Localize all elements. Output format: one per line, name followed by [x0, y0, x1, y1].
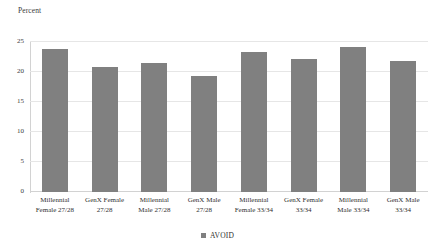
bar	[241, 52, 267, 192]
legend-label-avoid: AVOID	[210, 231, 234, 240]
gridline-15: 15	[30, 101, 428, 102]
x-axis-label-line: 33/34	[280, 206, 328, 216]
gridline-10: 10	[30, 131, 428, 132]
chart-legend: AVOID	[0, 231, 435, 240]
bar	[92, 67, 118, 192]
x-axis-label-line: Millennial	[230, 196, 278, 206]
x-axis-label-line: GenX Female	[280, 196, 328, 206]
bar	[141, 63, 167, 192]
x-axis-label-line: Male 27/28	[130, 206, 178, 216]
gridline-5: 5	[30, 161, 428, 162]
bar	[42, 49, 68, 192]
x-axis-label: MillennialMale 27/28	[130, 196, 178, 215]
bar	[390, 61, 416, 192]
bar	[291, 59, 317, 192]
gridline-0: 0	[30, 191, 428, 192]
x-axis-label: MillennialMale 33/34	[329, 196, 377, 215]
y-tick-label-0: 0	[21, 187, 25, 195]
x-axis-label-line: 27/28	[180, 206, 228, 216]
bar	[340, 47, 366, 192]
y-tick-label-25: 25	[17, 37, 24, 45]
gridline-20: 20	[30, 71, 428, 72]
x-axis-label: MillennialFemale 33/34	[230, 196, 278, 215]
y-tick-label-10: 10	[17, 127, 24, 135]
x-axis-label: GenX Male27/28	[180, 196, 228, 215]
bar-chart: Percent 0510152025 MillennialFemale 27/2…	[0, 0, 435, 250]
x-axis-label-line: 27/28	[81, 206, 129, 216]
y-axis-title: Percent	[18, 6, 41, 15]
x-axis-label: GenX Female27/28	[81, 196, 129, 215]
x-axis-label: GenX Male33/34	[379, 196, 427, 215]
gridline-25: 25	[30, 41, 428, 42]
x-axis-label-line: Millennial	[130, 196, 178, 206]
x-axis-label-line: Millennial	[329, 196, 377, 206]
x-axis-label-line: GenX Male	[379, 196, 427, 206]
x-axis-label-line: Female 27/28	[31, 206, 79, 216]
x-axis-label-line: Millennial	[31, 196, 79, 206]
bar	[191, 76, 217, 192]
x-axis-label-line: Male 33/34	[329, 206, 377, 216]
x-axis-label-line: Female 33/34	[230, 206, 278, 216]
y-tick-label-15: 15	[17, 97, 24, 105]
x-axis-labels: MillennialFemale 27/28GenX Female27/28Mi…	[30, 196, 428, 226]
plot-area: 0510152025	[30, 42, 428, 192]
y-tick-label-5: 5	[21, 157, 25, 165]
legend-swatch-avoid	[201, 233, 206, 238]
y-tick-label-20: 20	[17, 67, 24, 75]
x-axis-label-line: GenX Female	[81, 196, 129, 206]
x-axis-label-line: 33/34	[379, 206, 427, 216]
x-axis-label: GenX Female33/34	[280, 196, 328, 215]
x-axis-label: MillennialFemale 27/28	[31, 196, 79, 215]
x-axis-label-line: GenX Male	[180, 196, 228, 206]
